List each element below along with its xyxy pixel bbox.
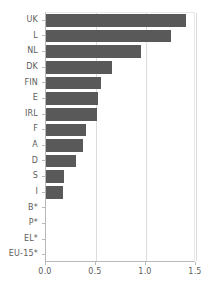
bar-row	[46, 201, 194, 216]
bar-FIN	[46, 77, 101, 90]
y-axis-label-P*: P*	[29, 215, 38, 230]
bar-NL	[46, 45, 141, 58]
bar-L	[46, 30, 171, 43]
y-axis-label-B*: B*	[28, 200, 38, 215]
bar-DK	[46, 61, 112, 74]
y-axis-label-FIN: FIN	[24, 75, 38, 90]
bar-I	[46, 186, 63, 199]
x-axis-label-1.5: 1.5	[188, 267, 201, 276]
bar-row	[46, 60, 194, 75]
y-axis-label-EL*: EL*	[24, 231, 38, 246]
y-axis-label-EU-15*: EU-15*	[9, 246, 38, 261]
y-axis-label-I: I	[35, 184, 38, 199]
y-axis-label-L: L	[33, 28, 38, 43]
x-axis-label-0.5: 0.5	[88, 267, 101, 276]
y-axis-label-DK: DK	[26, 59, 38, 74]
bar-S	[46, 170, 64, 183]
bar-row	[46, 91, 194, 106]
y-axis-label-E: E	[33, 90, 38, 105]
y-axis-label-IRL: IRL	[25, 106, 38, 121]
bar-D	[46, 155, 76, 168]
bar-row	[46, 138, 194, 153]
bar-row	[46, 107, 194, 122]
gridline-1.5	[196, 13, 197, 261]
bar-row	[46, 247, 194, 262]
bar-row	[46, 29, 194, 44]
bar-chart: UKLNLDKFINEIRLFADSIB*P*EL*EU-15* 0.00.51…	[0, 0, 209, 292]
x-axis-labels: 0.00.51.01.5	[45, 267, 196, 281]
x-axis-tick	[145, 262, 146, 265]
y-axis-label-D: D	[32, 153, 38, 168]
bar-row	[46, 44, 194, 59]
bar-row	[46, 232, 194, 247]
x-axis-tick	[45, 262, 46, 265]
bar-row	[46, 13, 194, 28]
y-axis-label-F: F	[33, 121, 38, 136]
bar-row	[46, 76, 194, 91]
x-axis-label-0.0: 0.0	[38, 267, 51, 276]
bar-row	[46, 122, 194, 137]
bars-layer	[46, 13, 194, 261]
bar-row	[46, 185, 194, 200]
y-axis-label-A: A	[32, 137, 38, 152]
plot-area	[45, 12, 195, 262]
x-axis-tick	[195, 262, 196, 265]
bar-row	[46, 169, 194, 184]
y-axis-label-S: S	[33, 168, 38, 183]
bar-F	[46, 124, 86, 137]
bar-row	[46, 216, 194, 231]
bar-A	[46, 139, 83, 152]
bar-IRL	[46, 108, 97, 121]
y-axis-label-NL: NL	[27, 43, 38, 58]
x-axis-ticks	[45, 262, 196, 266]
bar-E	[46, 92, 98, 105]
y-axis-label-UK: UK	[26, 12, 38, 27]
bar-UK	[46, 14, 186, 27]
bar-row	[46, 154, 194, 169]
x-axis-tick	[95, 262, 96, 265]
x-axis-label-1.0: 1.0	[138, 267, 151, 276]
y-axis-labels: UKLNLDKFINEIRLFADSIB*P*EL*EU-15*	[0, 12, 42, 262]
